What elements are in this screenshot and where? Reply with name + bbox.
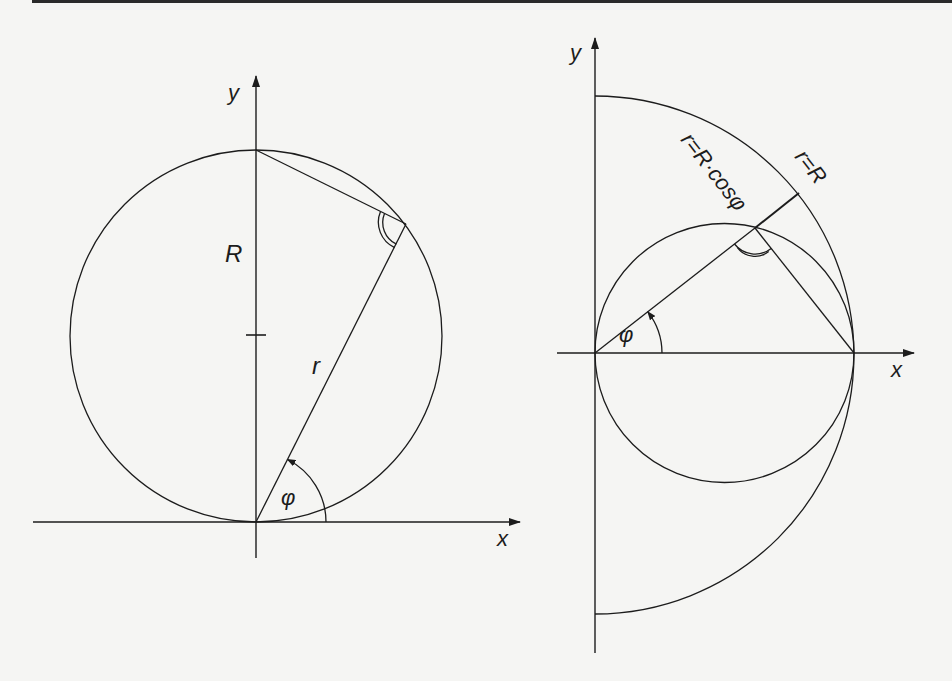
right-angle-arc	[648, 312, 662, 353]
left-y-label: y	[226, 80, 241, 105]
left-diagram	[33, 76, 520, 558]
left-radius-vector	[256, 224, 406, 522]
figure-page: y x R r φ y x φ r=R	[0, 0, 952, 681]
right-x-label: x	[890, 357, 903, 382]
left-radius-label: R	[225, 240, 242, 267]
right-large-arc-label: r=R	[790, 145, 832, 189]
left-x-label: x	[496, 526, 509, 551]
right-y-label: y	[568, 40, 583, 65]
left-chord-label: r	[312, 352, 321, 379]
right-radius-extension	[755, 193, 799, 228]
right-diagram	[557, 38, 914, 653]
right-angle-label: φ	[619, 322, 633, 347]
figure-canvas: y x R r φ y x φ r=R	[0, 0, 952, 681]
right-chord-line	[755, 228, 854, 353]
left-chord-top	[256, 150, 406, 224]
right-right-angle-mark-outer	[735, 244, 772, 254]
left-angle-label: φ	[281, 485, 295, 510]
